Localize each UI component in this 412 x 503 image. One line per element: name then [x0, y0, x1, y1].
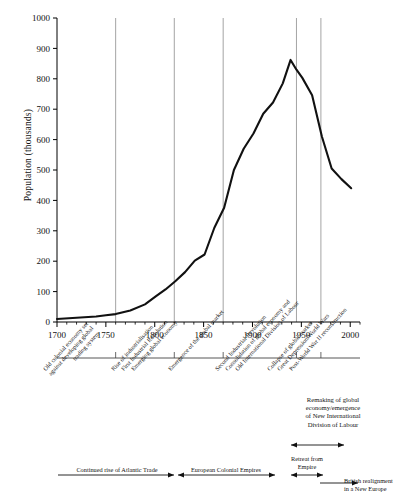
- svg-text:1750: 1750: [97, 330, 116, 340]
- timeline-label-colonial-empires: European Colonial Empires: [176, 466, 276, 474]
- timeline-label-atlantic-trade: Continued rise of Atlantic Trade: [58, 466, 176, 474]
- svg-text:200: 200: [37, 256, 51, 266]
- svg-text:700: 700: [37, 104, 51, 114]
- x-axis-ticks: 1700175018001850190019502000: [48, 322, 360, 340]
- population-line-chart: 01002003004005006007008009001000 1700175…: [0, 0, 412, 360]
- plot-area: Population (thousands) 01002003004005006…: [0, 0, 412, 355]
- timeline-label-retreat-from-empire: Retreat from Empire: [283, 455, 331, 470]
- svg-text:1850: 1850: [195, 330, 214, 340]
- svg-text:300: 300: [37, 226, 51, 236]
- y-axis-ticks: 01002003004005006007008009001000: [32, 13, 57, 327]
- svg-text:100: 100: [37, 287, 51, 297]
- svg-text:1000: 1000: [32, 13, 51, 23]
- svg-text:800: 800: [37, 74, 51, 84]
- svg-text:400: 400: [37, 196, 51, 206]
- svg-text:1800: 1800: [146, 330, 165, 340]
- svg-text:900: 900: [37, 44, 51, 54]
- svg-text:0: 0: [46, 317, 51, 327]
- population-data-line: [57, 60, 351, 319]
- era-timeline-ticks: [116, 352, 321, 358]
- svg-text:1950: 1950: [292, 330, 311, 340]
- svg-text:600: 600: [37, 135, 51, 145]
- chart-page: Population (thousands) 01002003004005006…: [0, 0, 412, 503]
- svg-text:1700: 1700: [48, 330, 67, 340]
- era-remaking-of-global-economy: Remaking of global economy/emergence of …: [287, 396, 379, 429]
- svg-text:2000: 2000: [341, 330, 360, 340]
- svg-text:500: 500: [37, 165, 51, 175]
- timeline-label-british-realignment: British realignment in a New Europe: [344, 477, 410, 492]
- svg-text:1900: 1900: [243, 330, 262, 340]
